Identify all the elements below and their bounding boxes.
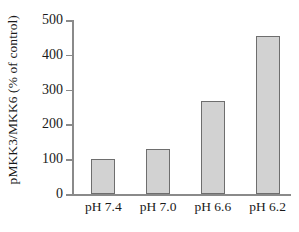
bar-chart-figure: pMKK3/MKK6 (% of control) 0 100 200 300 … <box>0 0 299 232</box>
x-tick-label: pH 6.2 <box>249 200 286 214</box>
y-tick-mark <box>66 90 73 92</box>
bar <box>256 36 280 194</box>
y-tick-mark <box>66 55 73 57</box>
x-tick-label: pH 6.6 <box>195 200 232 214</box>
plot-area: 0 100 200 300 400 500 pH 7.4 pH 7.0 <box>72 20 291 194</box>
y-tick-mark <box>66 124 73 126</box>
x-tick-label: pH 7.0 <box>140 200 177 214</box>
y-axis-title: pMKK3/MKK6 (% of control) <box>0 0 26 200</box>
y-tick-label: 300 <box>42 83 63 97</box>
y-tick-mark <box>66 159 73 161</box>
y-tick-label: 400 <box>42 48 63 62</box>
bar <box>201 101 225 194</box>
y-tick-label: 200 <box>42 117 63 131</box>
y-tick-label: 0 <box>56 187 63 201</box>
y-tick-label: 100 <box>42 152 63 166</box>
bar <box>91 159 115 194</box>
y-tick-label: 500 <box>42 13 63 27</box>
bar <box>146 149 170 194</box>
y-tick-mark <box>66 20 73 22</box>
y-tick-mark <box>66 194 73 196</box>
x-axis-line <box>72 194 291 196</box>
y-axis-title-text: pMKK3/MKK6 (% of control) <box>6 15 20 184</box>
x-tick-label: pH 7.4 <box>85 200 122 214</box>
y-axis-line <box>72 20 74 195</box>
